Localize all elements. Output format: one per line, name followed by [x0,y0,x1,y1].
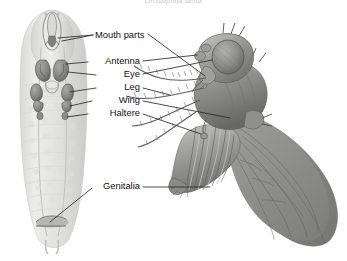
label-genitalia: Genitalia [60,181,140,191]
leader-leg-right [143,88,170,95]
anatomy-illustration [0,0,347,261]
leader-haltere-right [143,114,201,134]
adult-fly-specimen [126,23,338,246]
label-mouth-parts: Mouth parts [95,30,147,40]
label-haltere: Haltere [60,108,140,118]
label-eye: Eye [60,69,140,79]
label-leg: Leg [60,82,140,92]
leader-antenna-right [143,55,197,61]
label-wing: Wing [60,95,140,105]
larva-specimen [20,10,87,254]
label-antenna: Antenna [60,56,140,66]
figure-canvas: Drosophila larva [0,0,347,261]
